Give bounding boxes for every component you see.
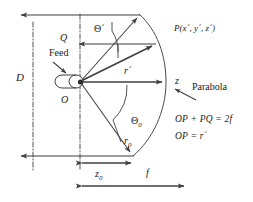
theta-prime-label: Θ´ — [94, 24, 105, 34]
z0-subscript: 0 — [99, 174, 103, 182]
diagram-canvas — [0, 0, 253, 202]
focus-point-marker — [78, 79, 83, 84]
parabola-curve — [133, 14, 166, 156]
feed-pointer-arrow — [53, 62, 66, 73]
aperture-diameter-label: D — [16, 72, 24, 83]
theta-zero-label: Θ0 — [131, 116, 142, 129]
parabola-label: Parabola — [192, 82, 227, 92]
equation-op-pq: OP + PQ = 2f — [175, 115, 232, 125]
r-zero-subscript: 0 — [128, 141, 132, 149]
point-p-label: P(x´, y´, z´) — [174, 24, 215, 33]
point-q-label: Q — [60, 33, 67, 43]
equation-op-rprime: OP = r´ — [175, 132, 207, 142]
r-zero-label: r0 — [124, 136, 131, 149]
z-axis-label: z — [175, 76, 179, 86]
focal-length-label: f — [146, 168, 149, 178]
theta-zero-subscript: 0 — [138, 121, 142, 129]
z0-label: z0 — [95, 169, 102, 182]
origin-label: O — [61, 95, 68, 105]
theta-prime-angle-arc — [112, 22, 118, 52]
ray-o-to-point-p — [81, 46, 152, 81]
ray-o-to-parabola-bottom-r0 — [81, 83, 130, 152]
theta-zero-angle-arc — [113, 85, 127, 142]
r-prime-label: r´ — [124, 66, 131, 76]
feed-label: Feed — [49, 48, 68, 58]
parabolic-reflector-diagram: D Q Feed O Θ´ Θ0 r´ r0 z z0 f Parabola P… — [0, 0, 253, 202]
